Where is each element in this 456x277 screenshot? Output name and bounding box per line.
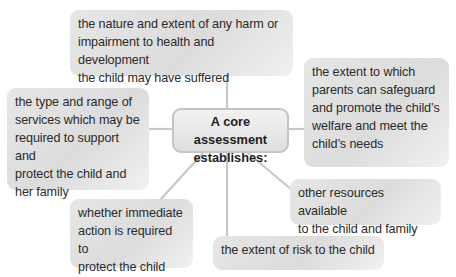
node-text-line: child’s needs xyxy=(312,135,441,153)
node-extent-of-risk: the extent of risk to the child xyxy=(213,236,384,270)
center-node: A core assessment establishes: xyxy=(172,108,289,153)
node-immediate-action: whether immediate action is required to … xyxy=(70,199,193,268)
center-title-line-1: A core assessment xyxy=(174,113,287,149)
center-title-line-2: establishes: xyxy=(174,149,287,167)
node-text-line: parents can safeguard xyxy=(312,81,441,99)
node-text-line: whether immediate xyxy=(78,204,185,222)
node-text-line: action is required to xyxy=(78,222,185,258)
node-text-line: protect the child xyxy=(78,258,185,276)
node-other-resources: other resources available to the child a… xyxy=(290,179,441,225)
node-text-line: the nature and extent of any harm or xyxy=(78,15,285,33)
node-text-line: and promote the child’s xyxy=(312,99,441,117)
node-text-line: the type and range of xyxy=(15,93,141,111)
node-text-line: services which may be xyxy=(15,111,141,129)
node-text-line: required to support and xyxy=(15,129,141,165)
node-text-line: the extent to which xyxy=(312,63,441,81)
node-text-line: impairment to health and development xyxy=(78,33,285,69)
node-text-line: protect the child and xyxy=(15,165,141,183)
node-nature-of-harm: the nature and extent of any harm or imp… xyxy=(70,10,293,76)
node-text-line: the child may have suffered xyxy=(78,69,285,87)
node-services-required: the type and range of services which may… xyxy=(7,88,149,190)
node-text-line: other resources available xyxy=(298,184,433,220)
node-text-line: the extent of risk to the child xyxy=(221,241,376,259)
node-parental-capacity: the extent to which parents can safeguar… xyxy=(304,58,449,167)
node-text-line: welfare and meet the xyxy=(312,117,441,135)
